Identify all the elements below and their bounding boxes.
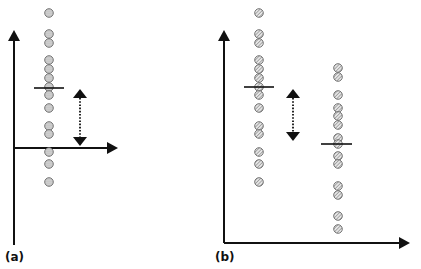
data-group-2 [321,64,352,234]
data-point [334,121,343,130]
data-point [45,104,54,113]
data-point [255,130,264,139]
y-axis-arrow-icon [8,30,20,41]
data-point [255,56,264,65]
data-point [334,191,343,200]
data-point [255,148,264,157]
data-point [255,160,264,169]
diagram-canvas [0,0,421,269]
data-point [334,152,343,161]
data-point [334,212,343,221]
data-point [334,182,343,191]
arrow-up-icon [286,89,300,98]
data-point [255,178,264,187]
data-point [45,9,54,18]
difference-arrow [73,89,87,146]
data-point [255,65,264,74]
y-axis-arrow-icon [218,30,230,41]
difference-arrow [286,89,300,141]
data-point [334,225,343,234]
data-point [45,65,54,74]
data-point [334,104,343,113]
panel-b-label: (b) [215,250,235,264]
data-point [255,122,264,131]
data-point [255,104,264,113]
data-point [334,112,343,121]
data-point [255,30,264,39]
data-point [45,39,54,48]
data-group-1 [244,9,274,187]
panel-a-label: (a) [5,250,24,264]
x-axis-arrow-icon [107,142,118,154]
x-axis-arrow-icon [399,237,410,249]
arrow-down-icon [286,132,300,141]
data-point [45,74,54,83]
data-point [255,91,264,100]
panel-a [8,9,118,245]
data-point [45,91,54,100]
data-point [334,91,343,100]
data-point [45,148,54,157]
data-point [334,73,343,82]
data-point [45,122,54,131]
arrow-down-icon [73,137,87,146]
data-point [45,30,54,39]
data-point [334,160,343,169]
data-point [255,39,264,48]
data-point [45,130,54,139]
data-point [255,9,264,18]
data-point [45,83,54,92]
data-point [255,74,264,83]
data-point [45,178,54,187]
data-point [45,56,54,65]
arrow-up-icon [73,89,87,98]
panel-b [218,9,410,249]
data-point [45,160,54,169]
data-point [334,64,343,73]
data-group-1 [34,9,64,187]
